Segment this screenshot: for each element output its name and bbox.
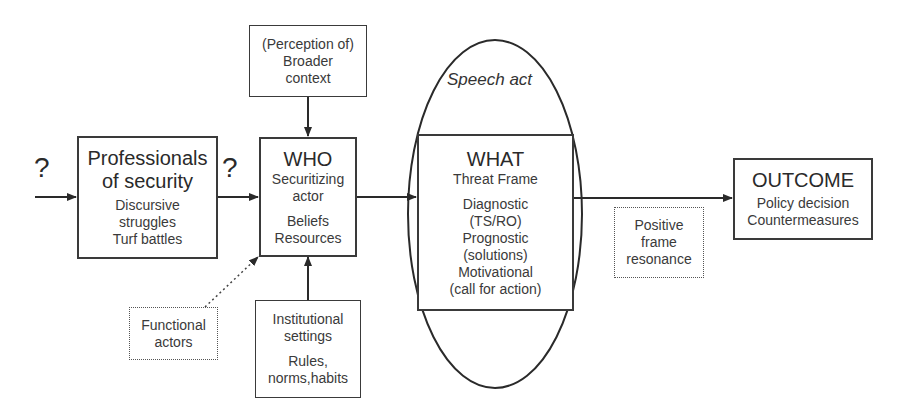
outcome-title: OUTCOME: [752, 169, 854, 192]
resonance-line-3: resonance: [626, 251, 691, 268]
institutional-settings-box: Institutional settings Rules, norms,habi…: [255, 300, 361, 398]
context-line-1: (Perception of): [262, 36, 354, 53]
who-detail-line-1: Beliefs: [287, 213, 329, 230]
outcome-detail-line-1: Policy decision: [757, 195, 850, 212]
question-mark-middle: ?: [222, 152, 238, 184]
what-detail-line-4: (solutions): [463, 247, 528, 264]
what-detail-line-3: Prognostic: [462, 230, 528, 247]
who-box: WHO Securitizing actor Beliefs Resources: [259, 137, 357, 257]
what-detail-line-1: Diagnostic: [463, 196, 528, 213]
what-detail-line-6: (call for action): [450, 281, 542, 298]
who-subtitle-line-1: Securitizing: [272, 171, 344, 188]
institutional-title-line-1: Institutional: [273, 311, 344, 328]
what-box: WHAT Threat Frame Diagnostic (TS/RO) Pro…: [417, 134, 574, 311]
institutional-detail-line-1: Rules,: [288, 353, 328, 370]
resonance-line-2: frame: [641, 234, 677, 251]
who-subtitle-line-2: actor: [292, 188, 323, 205]
what-title: WHAT: [467, 148, 524, 171]
functional-line-2: actors: [154, 334, 192, 351]
professionals-of-security-box: Professionals of security Discursive str…: [77, 136, 218, 259]
resonance-line-1: Positive: [634, 217, 683, 234]
what-detail-line-2: (TS/RO): [469, 213, 521, 230]
professionals-title-line-2: of security: [102, 170, 193, 193]
context-line-2: Broader: [283, 53, 333, 70]
outcome-detail-line-2: Countermeasures: [747, 212, 858, 229]
professionals-detail-line-1: Discursive: [115, 197, 180, 214]
broader-context-box: (Perception of) Broader context: [249, 25, 367, 97]
institutional-detail-line-2: norms,habits: [268, 370, 348, 387]
who-title: WHO: [284, 148, 333, 171]
what-subtitle: Threat Frame: [453, 171, 538, 188]
functional-actors-box: Functional actors: [129, 307, 218, 360]
question-mark-left: ?: [34, 152, 50, 184]
institutional-title-line-2: settings: [284, 328, 332, 345]
who-detail-line-2: Resources: [275, 230, 342, 247]
context-line-3: context: [285, 70, 330, 87]
professionals-detail-line-2: struggles: [119, 214, 176, 231]
professionals-title-line-1: Professionals: [87, 147, 207, 170]
arrow-functional-to-who: [205, 257, 258, 307]
what-detail-line-5: Motivational: [458, 264, 533, 281]
outcome-box: OUTCOME Policy decision Countermeasures: [733, 158, 873, 240]
professionals-detail-line-3: Turf battles: [113, 231, 183, 248]
speech-act-label: Speech act: [447, 70, 532, 90]
positive-frame-resonance-box: Positive frame resonance: [614, 207, 704, 278]
functional-line-1: Functional: [141, 317, 206, 334]
